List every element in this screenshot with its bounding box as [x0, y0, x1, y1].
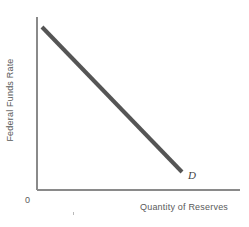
demand-curve-line	[42, 27, 182, 172]
y-axis-title: Federal Funds Rate	[6, 58, 15, 141]
demand-for-reserves-chart: Federal Funds Rate Quantity of Reserves …	[0, 0, 249, 227]
scan-artifact-mark	[73, 212, 74, 215]
demand-curve-label: D	[188, 170, 196, 181]
origin-label: 0	[25, 196, 30, 205]
chart-plot-area	[0, 0, 249, 227]
x-axis-title: Quantity of Reserves	[140, 203, 228, 212]
